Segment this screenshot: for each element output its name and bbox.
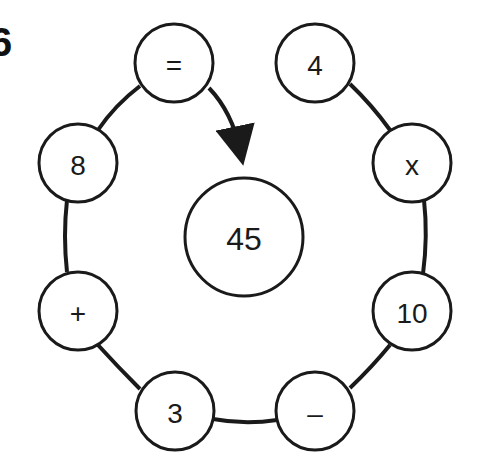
node-label: – [307,398,323,429]
ring-node-four: 4 [276,24,354,102]
center-node: 45 [185,178,303,296]
ring-node-equals: = [135,24,213,102]
ring-node-times: x [373,124,451,202]
node-label: 3 [167,398,183,429]
ring-node-plus: + [39,272,117,350]
ring-node-ten: 10 [373,272,451,350]
node-label: + [70,298,86,329]
node-label: x [405,150,419,181]
connector-four-times [350,84,390,130]
node-label: 10 [396,298,427,329]
arrow-equals-to-center [209,88,240,150]
ring-node-eight: 8 [39,124,117,202]
number-ring-diagram: 45 = 4 x 10 – 3 + 8 [0,0,479,466]
connector-eight-equals [98,86,140,130]
connector-three-plus [98,345,140,389]
ring-node-three: 3 [136,372,214,450]
node-label: 4 [307,50,323,81]
connector-ten-minus [350,345,390,388]
ring-node-minus: – [276,372,354,450]
connector-minus-three [213,419,277,422]
connector-plus-eight [65,200,67,272]
node-label: 8 [70,150,86,181]
node-label: = [166,50,182,81]
center-label: 45 [226,221,262,257]
connector-times-ten [423,200,426,274]
